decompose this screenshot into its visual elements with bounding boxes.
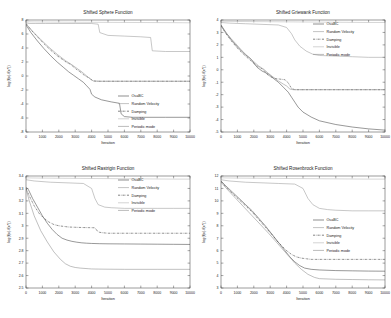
y-tick-label: 3.3 bbox=[19, 187, 24, 191]
plot-frame bbox=[221, 20, 385, 132]
x-tick-label: 8000 bbox=[153, 135, 161, 139]
series-line-periodic-mode bbox=[221, 182, 385, 280]
series-line-damping bbox=[221, 26, 385, 90]
plot-frame bbox=[26, 176, 190, 288]
x-tick-label: 7000 bbox=[137, 135, 145, 139]
x-tick-label: 8000 bbox=[348, 291, 356, 295]
x-tick-label: 5000 bbox=[299, 291, 307, 295]
series-line-osabc bbox=[26, 187, 190, 244]
y-tick-label: 4 bbox=[217, 274, 219, 278]
x-tick-label: 2000 bbox=[250, 291, 258, 295]
x-axis-label: Iteration bbox=[101, 141, 115, 145]
series-line-damping bbox=[26, 188, 190, 233]
y-tick-label: 2.7 bbox=[19, 261, 24, 265]
x-tick-label: 1000 bbox=[234, 291, 242, 295]
x-tick-label: 3000 bbox=[71, 291, 79, 295]
legend-label: Periodic mode bbox=[327, 53, 351, 57]
x-tick-label: 8000 bbox=[348, 135, 356, 139]
y-tick-label: 8 bbox=[217, 224, 219, 228]
legend: OsaBCRandom VelocityDampingInvisiblePeri… bbox=[313, 22, 354, 56]
y-tick-label: 3.4 bbox=[19, 174, 24, 178]
x-tick-label: 5000 bbox=[299, 135, 307, 139]
legend-label: Periodic mode bbox=[327, 249, 351, 253]
y-axis-label: log(f(x)-f(x*)) bbox=[7, 65, 11, 87]
x-tick-label: 0 bbox=[25, 135, 27, 139]
y-axis-label: log(f(x)-f(x*)) bbox=[202, 221, 206, 243]
legend-label: Random Velocity bbox=[132, 186, 160, 190]
legend-label: OsaBC bbox=[132, 94, 144, 98]
x-tick-label: 10000 bbox=[380, 291, 390, 295]
x-tick-label: 1000 bbox=[234, 135, 242, 139]
y-tick-label: -4 bbox=[20, 102, 23, 106]
legend-label: Damping bbox=[327, 234, 342, 238]
x-tick-label: 3000 bbox=[266, 291, 274, 295]
legend-label: Periodic mode bbox=[132, 125, 156, 129]
y-tick-label: 5 bbox=[217, 261, 219, 265]
y-tick-label: 2.6 bbox=[19, 274, 24, 278]
x-tick-label: 7000 bbox=[332, 291, 340, 295]
y-tick-label: 2.5 bbox=[19, 286, 24, 290]
x-axis-label: Iteration bbox=[296, 141, 310, 145]
panel-rosenbrock: Shifted Rosenbrock Function0100020003000… bbox=[195, 160, 391, 316]
series-line-periodic-mode bbox=[221, 26, 385, 89]
plot-title: Shifted Rosenbrock Function bbox=[274, 166, 333, 171]
x-tick-label: 6000 bbox=[121, 135, 129, 139]
series-line-periodic-mode bbox=[26, 24, 190, 81]
x-tick-label: 9000 bbox=[170, 135, 178, 139]
x-tick-label: 0 bbox=[220, 135, 222, 139]
plot-title: Shifted Rastrigin Function bbox=[82, 166, 135, 171]
panel-sphere: Shifted Sphere Function01000200030004000… bbox=[0, 4, 196, 160]
x-tick-label: 4000 bbox=[88, 135, 96, 139]
x-tick-label: 6000 bbox=[121, 291, 129, 295]
y-tick-label: 2.9 bbox=[19, 237, 24, 241]
x-tick-label: 2000 bbox=[55, 135, 63, 139]
x-tick-label: 1000 bbox=[39, 291, 47, 295]
x-tick-label: 3000 bbox=[71, 135, 79, 139]
x-tick-label: 5000 bbox=[104, 291, 112, 295]
x-tick-label: 10000 bbox=[185, 135, 195, 139]
y-axis-label: log(f(x)-f(x*)) bbox=[202, 65, 206, 87]
y-tick-label: 3 bbox=[217, 286, 219, 290]
y-tick-label: -6 bbox=[20, 116, 23, 120]
series-line-random-velocity bbox=[221, 22, 385, 57]
y-tick-label: 1 bbox=[217, 56, 219, 60]
y-tick-label: -1 bbox=[215, 81, 218, 85]
legend-label: OsaBC bbox=[327, 22, 339, 26]
y-tick-label: 2.8 bbox=[19, 249, 24, 253]
x-tick-label: 1000 bbox=[39, 135, 47, 139]
legend-label: Invisible bbox=[132, 117, 145, 121]
x-tick-label: 4000 bbox=[283, 291, 291, 295]
y-tick-label: -8 bbox=[20, 130, 23, 134]
legend-label: Random Velocity bbox=[132, 102, 160, 106]
x-tick-label: 0 bbox=[220, 291, 222, 295]
y-tick-label: 3.2 bbox=[19, 199, 24, 203]
y-tick-label: 3 bbox=[217, 31, 219, 35]
y-tick-label: 6 bbox=[22, 32, 24, 36]
x-tick-label: 2000 bbox=[250, 135, 258, 139]
y-tick-label: -5 bbox=[215, 130, 218, 134]
x-tick-label: 0 bbox=[25, 291, 27, 295]
x-tick-label: 10000 bbox=[185, 291, 195, 295]
x-tick-label: 9000 bbox=[365, 291, 373, 295]
y-tick-label: 7 bbox=[217, 237, 219, 241]
x-tick-label: 6000 bbox=[316, 291, 324, 295]
y-tick-label: 0 bbox=[217, 68, 219, 72]
y-tick-label: -3 bbox=[215, 105, 218, 109]
legend-label: Damping bbox=[327, 38, 342, 42]
x-tick-label: 9000 bbox=[365, 135, 373, 139]
y-tick-label: 2 bbox=[22, 60, 24, 64]
legend-label: Invisible bbox=[132, 201, 145, 205]
x-tick-label: 7000 bbox=[332, 135, 340, 139]
x-tick-label: 7000 bbox=[137, 291, 145, 295]
y-tick-label: -2 bbox=[20, 88, 23, 92]
plot-title: Shifted Sphere Function bbox=[83, 10, 133, 15]
legend-label: Damping bbox=[132, 194, 147, 198]
y-tick-label: 3.1 bbox=[19, 212, 24, 216]
legend-label: Damping bbox=[132, 110, 147, 114]
series-line-random-velocity bbox=[26, 23, 190, 52]
panel-rastrigin: Shifted Rastrigin Function01000200030004… bbox=[0, 160, 196, 316]
x-tick-label: 9000 bbox=[170, 291, 178, 295]
y-tick-label: 10 bbox=[215, 199, 219, 203]
series-line-osabc bbox=[221, 25, 385, 130]
legend: OsaBCRandom VelocityDampingInvisiblePeri… bbox=[313, 218, 354, 252]
